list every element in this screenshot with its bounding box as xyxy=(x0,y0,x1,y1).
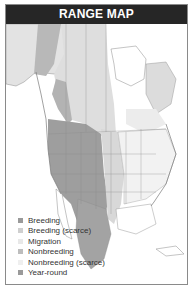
breeding-swatch xyxy=(18,218,23,223)
legend-item: Breeding xyxy=(18,215,105,226)
legend-label: Migration xyxy=(28,237,61,246)
breeding-scarce-swatch xyxy=(18,228,23,233)
legend-label: Breeding xyxy=(28,216,60,225)
nonbreeding-scarce-swatch xyxy=(18,260,23,265)
legend-item: Nonbreeding (scarce) xyxy=(18,257,105,268)
nonbreeding-swatch xyxy=(18,249,23,254)
legend-label: Nonbreeding (scarce) xyxy=(28,258,105,267)
legend-label: Breeding (scarce) xyxy=(28,226,91,235)
legend-item: Breeding (scarce) xyxy=(18,226,105,237)
legend-label: Year-round xyxy=(28,268,67,277)
map-legend: Breeding Breeding (scarce) Migration Non… xyxy=(18,215,105,278)
legend-item: Migration xyxy=(18,236,105,247)
legend-item: Year-round xyxy=(18,268,105,279)
legend-label: Nonbreeding xyxy=(28,247,74,256)
migration-swatch xyxy=(18,239,23,244)
panel-title: RANGE MAP xyxy=(6,5,187,24)
range-map-panel: RANGE MAP xyxy=(5,4,188,285)
legend-item: Nonbreeding xyxy=(18,247,105,258)
year-round-swatch xyxy=(18,270,23,275)
